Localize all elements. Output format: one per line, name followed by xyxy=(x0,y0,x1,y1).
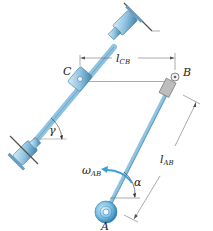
pin-c xyxy=(78,77,83,82)
rod-ab xyxy=(106,86,170,212)
alpha-label: α xyxy=(134,176,142,189)
mechanism-diagram: γ C B lCB lAB α ωAB xyxy=(0,0,213,231)
svg-text:lAB: lAB xyxy=(160,153,174,167)
point-a-label: A xyxy=(100,220,109,231)
point-b-label: B xyxy=(182,66,191,79)
gamma-label: γ xyxy=(49,124,56,137)
point-c-label: C xyxy=(63,65,72,78)
svg-text:lCB: lCB xyxy=(116,52,130,66)
omega-label: ωAB xyxy=(82,164,101,178)
top-cylinder xyxy=(103,5,143,45)
